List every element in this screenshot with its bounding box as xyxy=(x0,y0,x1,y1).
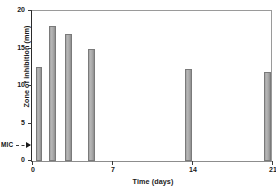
mic-arrow-marker xyxy=(26,142,31,148)
y-axis-tick: 15 xyxy=(28,48,32,49)
y-axis-tick-label: 5 xyxy=(21,119,25,126)
bar xyxy=(88,49,94,162)
x-axis-tick: 0 xyxy=(32,161,33,165)
mic-annotation-label: MIC xyxy=(1,141,13,148)
x-axis-tick: 7 xyxy=(112,161,113,165)
x-axis-tick-label: 21 xyxy=(269,166,276,173)
bar xyxy=(65,34,71,162)
x-axis-tick: 21 xyxy=(272,161,273,165)
y-axis-tick: 10 xyxy=(28,85,32,86)
x-axis-tick-label: 14 xyxy=(189,166,197,173)
plot-frame: 05101520071421 xyxy=(31,10,272,162)
chart-figure: Zone of inhibition (mm) Time (days) 0510… xyxy=(0,0,276,190)
bar xyxy=(185,69,191,161)
y-axis-tick: 20 xyxy=(28,10,32,11)
bar xyxy=(36,67,42,161)
x-axis-tick-label: 0 xyxy=(31,166,35,173)
y-axis-tick-label: 10 xyxy=(17,81,25,88)
y-axis-tick-label: 20 xyxy=(17,6,25,13)
plot-area: 05101520071421 xyxy=(32,11,271,161)
bar xyxy=(264,72,270,161)
y-axis-tick: 5 xyxy=(28,123,32,124)
x-axis-title: Time (days) xyxy=(30,177,276,186)
x-axis-tick: 14 xyxy=(192,161,193,165)
bar xyxy=(49,26,55,161)
y-axis-tick-label: 15 xyxy=(17,44,25,51)
y-axis-title: Zone of inhibition (mm) xyxy=(22,0,31,137)
x-axis-tick-label: 7 xyxy=(111,166,115,173)
y-axis-tick-label: 0 xyxy=(21,156,25,163)
